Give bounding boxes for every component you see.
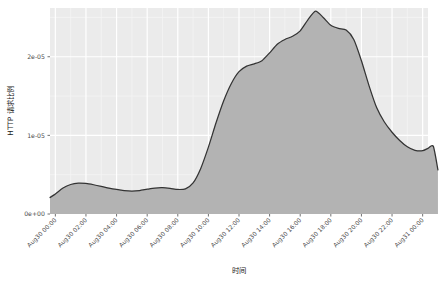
- y-tick-label: 1e-05: [27, 132, 45, 139]
- chart-canvas: 0e+001e-052e-05 Aug30 00:00Aug30 02:00Au…: [0, 0, 442, 285]
- y-tick-label: 0e+00: [24, 210, 45, 217]
- y-axis-title: HTTP 请求比例: [6, 86, 15, 135]
- y-tick-label: 2e-05: [27, 53, 45, 60]
- http-request-ratio-chart: 0e+001e-052e-05 Aug30 00:00Aug30 02:00Au…: [0, 0, 442, 285]
- x-axis-title: 时间: [232, 266, 246, 275]
